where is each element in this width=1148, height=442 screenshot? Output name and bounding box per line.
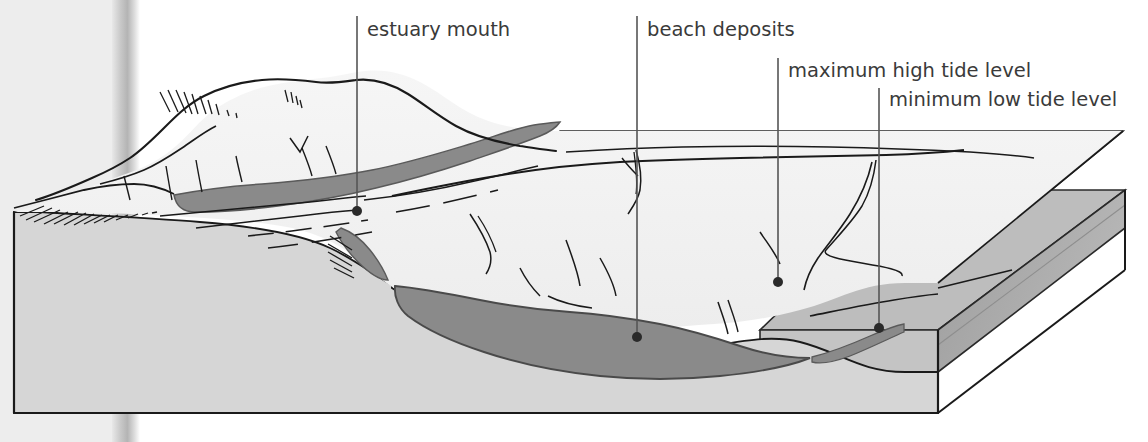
label-text: beach deposits	[647, 18, 795, 41]
leader-dot	[874, 323, 884, 333]
leader-dot	[632, 332, 642, 342]
leader-dot	[352, 206, 362, 216]
label-text: maximum high tide level	[788, 59, 1031, 82]
label-text: estuary mouth	[367, 18, 510, 41]
leader-dot	[773, 277, 783, 287]
figure-canvas: estuary mouth beach deposits maximum hig…	[0, 0, 1148, 442]
label-text: minimum low tide level	[889, 88, 1117, 111]
block-diagram: estuary mouth beach deposits maximum hig…	[0, 0, 1148, 442]
